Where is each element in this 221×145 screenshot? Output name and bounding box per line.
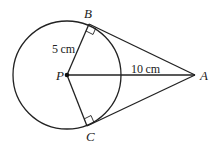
diagram: B C P A 5 cm 10 cm (0, 0, 221, 145)
PA-measure: 10 cm (131, 63, 160, 75)
tangent-CA (87, 75, 195, 126)
circle-tangent-figure (0, 0, 221, 145)
center-point-P (65, 73, 70, 78)
label-B: B (84, 7, 92, 20)
label-A: A (200, 69, 208, 82)
label-P: P (56, 69, 64, 82)
radius-PC (67, 75, 87, 126)
label-C: C (86, 130, 95, 143)
radius-measure: 5 cm (52, 43, 75, 55)
